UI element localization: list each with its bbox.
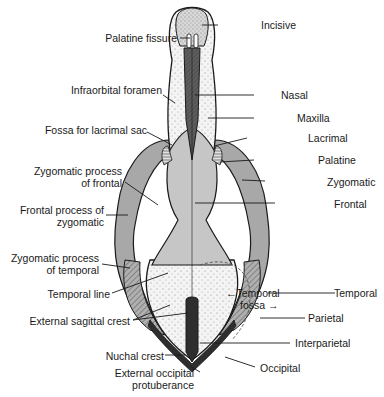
label-parietal: Parietal bbox=[308, 312, 344, 324]
palatine-fissure-shape bbox=[187, 34, 191, 48]
label-occipital: Occipital bbox=[260, 362, 300, 374]
label-interparietal: Interparietal bbox=[295, 337, 350, 349]
label-temporal-fossa-2: fossa → bbox=[240, 299, 279, 311]
label-zygomatic-process-frontal: Zygomatic process bbox=[34, 165, 122, 177]
label-palatine-fissure: Palatine fissure bbox=[105, 32, 177, 44]
label-palatine: Palatine bbox=[318, 154, 356, 166]
palatine-fissure-shape-2 bbox=[194, 34, 198, 48]
label-nasal: Nasal bbox=[281, 89, 308, 101]
label-maxilla: Maxilla bbox=[297, 112, 330, 124]
label-nuchal-crest: Nuchal crest bbox=[106, 350, 164, 362]
label-fossa-lacrimal-sac: Fossa for lacrimal sac bbox=[45, 124, 147, 136]
label-lacrimal: Lacrimal bbox=[308, 132, 348, 144]
label-zygomatic-process-frontal-2: of frontal bbox=[81, 177, 122, 189]
label-frontal-process-zygomatic-2: zygomatic bbox=[57, 216, 104, 228]
label-zygomatic-process-temporal: Zygomatic process bbox=[11, 252, 99, 264]
label-infraorbital-foramen: Infraorbital foramen bbox=[71, 84, 162, 96]
label-temporal-line: Temporal line bbox=[48, 288, 110, 300]
label-frontal: Frontal bbox=[334, 198, 367, 210]
label-zygomatic: Zygomatic bbox=[327, 176, 375, 188]
label-temporal-fossa: ←Temporal bbox=[226, 287, 280, 299]
label-incisive: Incisive bbox=[261, 19, 296, 31]
label-frontal-process-zygomatic: Frontal process of bbox=[20, 204, 104, 216]
label-external-sagittal-crest: External sagittal crest bbox=[30, 315, 130, 327]
label-temporal: Temporal bbox=[334, 287, 377, 299]
incisive-region bbox=[176, 8, 208, 46]
interparietal-region bbox=[186, 297, 198, 362]
label-external-occipital-2: protuberance bbox=[132, 379, 194, 391]
label-external-occipital: External occipital bbox=[115, 367, 194, 379]
label-zygomatic-process-temporal-2: of temporal bbox=[46, 264, 99, 276]
